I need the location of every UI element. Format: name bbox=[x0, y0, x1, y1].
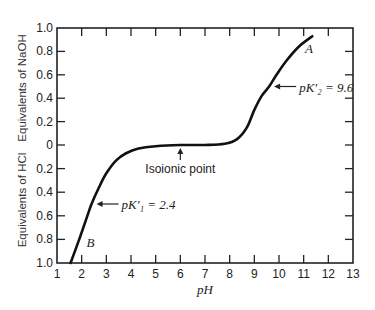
y-tick-label-hcl: 0.6 bbox=[36, 209, 53, 223]
x-tick-label: 11 bbox=[297, 267, 310, 281]
y-tick-label-naoh: 0.2 bbox=[36, 115, 53, 129]
x-tick-label: 7 bbox=[202, 267, 209, 281]
x-tick-label: 3 bbox=[103, 267, 110, 281]
curve-layer bbox=[71, 36, 313, 263]
x-axis-label: pH bbox=[196, 282, 214, 297]
x-tick-label: 8 bbox=[226, 267, 233, 281]
x-tick-label: 10 bbox=[272, 267, 286, 281]
arrow-head-icon bbox=[274, 84, 280, 90]
y-tick-label-hcl: 0.2 bbox=[36, 162, 53, 176]
arrow-head-icon bbox=[177, 148, 183, 154]
curve-label-A: A bbox=[304, 41, 313, 56]
ticks: 123456789101112131.00.80.60.40.200.20.40… bbox=[36, 21, 360, 281]
annotation-pk1: pK′₁ = 2.4 bbox=[121, 197, 177, 212]
x-tick-label: 1 bbox=[54, 267, 61, 281]
curve-label-B: B bbox=[87, 235, 95, 250]
titration-curve bbox=[71, 36, 313, 263]
x-tick-label: 6 bbox=[177, 267, 184, 281]
x-tick-label: 13 bbox=[346, 267, 360, 281]
y-tick-label-naoh: 0.4 bbox=[36, 91, 53, 105]
annotation-pk2: pK′₂ = 9.6 bbox=[298, 80, 354, 95]
y-axis-label-hcl: Equivalents of HCl bbox=[16, 153, 28, 248]
titration-chart: 123456789101112131.00.80.60.40.200.20.40… bbox=[0, 0, 375, 310]
y-tick-label-hcl: 1.0 bbox=[36, 256, 53, 270]
y-tick-label-hcl: 0.8 bbox=[36, 232, 53, 246]
x-tick-label: 5 bbox=[152, 267, 159, 281]
y-tick-label-naoh: 0.8 bbox=[36, 44, 53, 58]
x-tick-label: 9 bbox=[251, 267, 258, 281]
x-tick-label: 2 bbox=[78, 267, 85, 281]
y-tick-label-naoh: 0.6 bbox=[36, 68, 53, 82]
x-tick-label: 12 bbox=[322, 267, 336, 281]
y-tick-label-hcl: 0.4 bbox=[36, 185, 53, 199]
x-tick-label: 4 bbox=[128, 267, 135, 281]
annotation-isoionic-point: Isoionic point bbox=[145, 162, 216, 176]
arrow-head-icon bbox=[97, 201, 103, 207]
y-tick-label-naoh: 1.0 bbox=[36, 21, 53, 35]
y-tick-label-naoh: 0 bbox=[46, 138, 53, 152]
y-axis-label-naoh: Equivalents of NaOH bbox=[16, 34, 28, 141]
